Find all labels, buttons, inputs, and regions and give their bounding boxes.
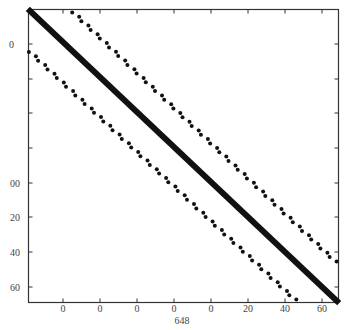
matrix-entry-dot (77, 15, 81, 19)
matrix-entry-dot (142, 76, 146, 80)
matrix-entry-dot (307, 233, 311, 237)
matrix-entry-dot (280, 207, 284, 211)
y-tick-label: 0 (9, 39, 14, 50)
matrix-entry-dot (269, 276, 273, 280)
matrix-entry-dot (46, 67, 50, 71)
matrix-entry-dot (325, 251, 329, 255)
matrix-entry-dot (80, 98, 84, 102)
matrix-entry-dot (144, 80, 148, 84)
matrix-entry-dot (263, 194, 267, 198)
matrix-entry-dot (213, 224, 217, 228)
matrix-entry-dot (169, 102, 173, 106)
matrix-entry-dot (118, 133, 122, 137)
matrix-entry-dot (176, 189, 180, 193)
matrix-entry-dot (259, 267, 263, 271)
matrix-entry-dot (245, 177, 249, 181)
matrix-entry-dot (27, 50, 31, 54)
matrix-entry-dot (270, 198, 274, 202)
matrix-entry-dot (298, 225, 302, 229)
matrix-entry-dot (194, 206, 198, 210)
upper-off-diagonal-band (70, 10, 338, 263)
matrix-entry-dot (173, 185, 177, 189)
matrix-entry-dot (99, 115, 103, 119)
matrix-entry-dot (164, 176, 168, 180)
x-tick-label: 0 (209, 303, 214, 314)
matrix-entry-dot (248, 254, 252, 258)
matrix-entry-dot (136, 150, 140, 154)
matrix-entry-dot (53, 72, 57, 76)
matrix-entry-dot (34, 54, 38, 58)
matrix-entry-dot (254, 185, 258, 189)
x-tick-label: 0 (135, 303, 140, 314)
matrix-entry-dot (276, 280, 280, 284)
matrix-entry-dot (90, 107, 94, 111)
matrix-entry-dot (285, 289, 289, 293)
matrix-entry-dot (79, 19, 83, 23)
matrix-entry-dot (208, 142, 212, 146)
matrix-entry-dot (92, 111, 96, 115)
matrix-entry-dot (190, 124, 194, 128)
matrix-entry-dot (220, 228, 224, 232)
matrix-entry-dot (273, 203, 277, 207)
y-tick-label: 20 (10, 212, 20, 223)
x-tick-label: 0 (172, 303, 177, 314)
matrix-entry-dot (227, 159, 231, 163)
matrix-entry-dot (83, 102, 87, 106)
matrix-entry-dot (204, 215, 208, 219)
matrix-entry-dot (71, 89, 75, 93)
matrix-entry-dot (138, 154, 142, 158)
matrix-entry-dot (86, 24, 90, 28)
matrix-entry-dot (183, 193, 187, 197)
matrix-entry-dot (318, 246, 322, 250)
x-tick-label: 0 (98, 303, 103, 314)
matrix-entry-dot (135, 72, 139, 76)
matrix-entry-dot (107, 45, 111, 49)
matrix-entry-dot (224, 155, 228, 159)
matrix-entry-dot (243, 172, 247, 176)
matrix-entry-dot (105, 41, 109, 45)
matrix-entry-dot (291, 220, 295, 224)
matrix-entry-dot (192, 202, 196, 206)
matrix-entry-dot (55, 76, 59, 80)
matrix-entry-dot (234, 163, 238, 167)
matrix-entry-dot (98, 37, 102, 41)
matrix-entry-dot (185, 198, 189, 202)
matrix-entry-dot (123, 59, 127, 63)
matrix-entry-dot (129, 146, 133, 150)
matrix-entry-dot (197, 128, 201, 132)
y-tick-label: 60 (10, 282, 20, 293)
matrix-entry-dot (201, 211, 205, 215)
matrix-entry-dot (250, 259, 254, 263)
matrix-entry-dot (257, 263, 261, 267)
matrix-entry-dot (241, 250, 245, 254)
matrix-entry-dot (101, 120, 105, 124)
matrix-entry-dot (73, 93, 77, 97)
matrix-entry-dot (222, 232, 226, 236)
matrix-entry-dot (116, 54, 120, 58)
x-tick-label: 0 (61, 303, 66, 314)
matrix-entry-dot (335, 260, 339, 264)
matrix-entry-dot (160, 93, 164, 97)
matrix-entry-dot (132, 67, 136, 71)
matrix-entry-dot (114, 50, 118, 54)
matrix-entry-dot (294, 298, 298, 302)
y-axis-labels: 0 00 20 40 60 (9, 39, 20, 293)
matrix-entry-dot (287, 293, 291, 297)
matrix-entry-dot (64, 85, 68, 89)
matrix-entry-dot (155, 167, 159, 171)
x-axis-labels: 0 0 0 0 0 20 40 60 (61, 303, 328, 314)
matrix-entry-dot (157, 172, 161, 176)
x-axis-title: 648 (175, 315, 190, 326)
matrix-entry-dot (146, 159, 150, 163)
matrix-entry-dot (96, 32, 100, 36)
lower-off-diagonal-band (27, 50, 298, 302)
matrix-entry-dot (166, 180, 170, 184)
matrix-entry-dot (261, 190, 265, 194)
matrix-entry-dot (229, 237, 233, 241)
y-tick-label: 40 (10, 247, 20, 258)
matrix-entry-dot (328, 255, 332, 259)
main-diagonal (30, 11, 337, 301)
matrix-entry-dot (89, 28, 93, 32)
matrix-entry-dot (148, 163, 152, 167)
matrix-entry-dot (252, 181, 256, 185)
